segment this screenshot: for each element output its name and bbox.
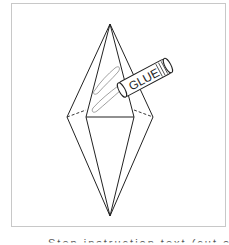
outer-edge-right — [110, 24, 153, 216]
outer-edge-left — [67, 24, 110, 216]
glue-stick-icon: GLUE — [116, 57, 175, 98]
bipyramid-diagram: GLUE — [0, 0, 229, 245]
